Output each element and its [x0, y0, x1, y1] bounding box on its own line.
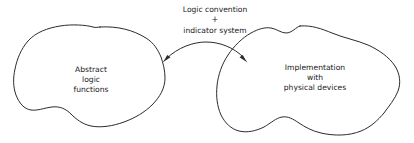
right-blob-label-line-2: with [307, 73, 323, 82]
diagram-canvas: Logic convention + indicator system Abst… [0, 0, 414, 143]
left-blob-label-line-3: functions [74, 85, 109, 94]
right-blob-label-line-1: Implementation [285, 63, 345, 72]
left-blob-label-line-1: Abstract [75, 65, 107, 74]
connector-label-line-3: indicator system [183, 26, 246, 35]
connector-label-line-1: Logic convention [183, 5, 248, 14]
diagram-svg: Logic convention + indicator system Abst… [0, 0, 414, 143]
connector-label-plus: + [212, 14, 219, 24]
left-blob-label-line-2: logic [82, 75, 100, 84]
right-blob-label-line-3: physical devices [284, 83, 346, 92]
